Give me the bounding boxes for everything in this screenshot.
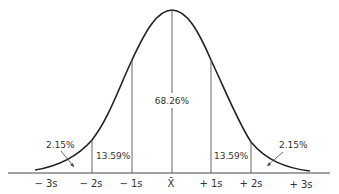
left-inner-percent-label: 13.59% xyxy=(96,151,131,161)
axis-label-minus-3s: − 3s xyxy=(34,178,57,189)
right-inner-percent-label: 13.59% xyxy=(214,151,249,161)
normal-distribution-diagram: 68.26% 13.59% 13.59% 2.15% 2.15% − 3s − … xyxy=(0,0,339,194)
axis-label-plus-2s: + 2s xyxy=(239,178,262,189)
axis-label-mean: X̄ xyxy=(168,177,175,189)
axis-label-plus-3s: + 3s xyxy=(289,179,312,190)
center-percent-label: 68.26% xyxy=(155,96,190,106)
right-tail-percent-label: 2.15% xyxy=(279,140,308,150)
left-tail-arrowhead xyxy=(70,163,74,167)
bell-curve xyxy=(35,10,310,171)
axis-label-plus-1s: + 1s xyxy=(199,178,222,189)
left-tail-percent-label: 2.15% xyxy=(46,140,75,150)
axis-label-minus-2s: − 2s xyxy=(79,178,102,189)
axis-label-minus-1s: − 1s xyxy=(119,178,142,189)
